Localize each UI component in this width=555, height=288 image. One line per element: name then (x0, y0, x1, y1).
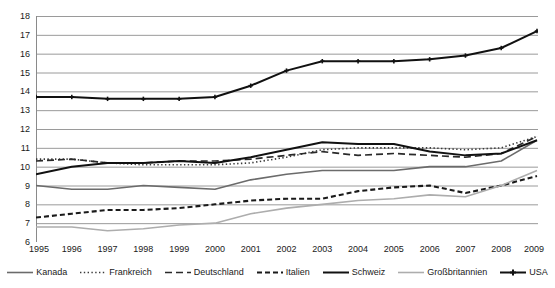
y-axis-tick-label: 12 (20, 125, 30, 134)
legend-item-deutschland[interactable]: Deutschland (165, 268, 244, 277)
legend-item-schweiz[interactable]: Schweiz (323, 268, 386, 277)
legend-swatch-dotted (80, 268, 106, 277)
data-point-marker (177, 97, 181, 101)
data-point-marker (141, 97, 145, 101)
legend-swatch-solid (500, 268, 526, 277)
x-axis-tick-label: 1995 (29, 245, 49, 254)
series-line-gro-britannien (36, 170, 537, 230)
x-axis-tick-label: 1999 (169, 245, 189, 254)
legend-swatch-dashed-short (257, 268, 283, 277)
y-axis-tick-label: 16 (20, 49, 30, 58)
legend-label: Frankreich (109, 268, 152, 277)
x-axis-tick-label: 2004 (348, 245, 368, 254)
data-point-marker (36, 95, 38, 99)
y-axis-tick-label: 7 (25, 219, 30, 228)
x-axis-tick-label: 2003 (312, 245, 332, 254)
legend-label: Schweiz (352, 268, 386, 277)
legend-swatch-solid (398, 268, 424, 277)
x-axis-tick-label: 2001 (241, 245, 261, 254)
legend-item-frankreich[interactable]: Frankreich (80, 268, 152, 277)
legend-swatch-solid (7, 268, 33, 277)
legend-label: Italien (286, 268, 310, 277)
legend-item-italien[interactable]: Italien (257, 268, 310, 277)
x-axis-tick-label: 2006 (420, 245, 440, 254)
data-point-marker (213, 95, 217, 99)
y-axis-tick-label: 17 (20, 30, 30, 39)
chart-legend: KanadaFrankreichDeutschlandItalienSchwei… (0, 264, 555, 280)
legend-label: Großbritannien (427, 268, 487, 277)
data-point-marker (356, 59, 360, 63)
y-axis-tick-label: 8 (25, 200, 30, 209)
x-axis-tick-label: 2009 (524, 245, 544, 254)
series-line-usa (36, 31, 537, 99)
y-axis-tick-label: 9 (25, 181, 30, 190)
y-axis-tick-label: 10 (20, 162, 30, 171)
legend-item-kanada[interactable]: Kanada (7, 268, 67, 277)
legend-label: Deutschland (194, 268, 244, 277)
data-point-marker (392, 59, 396, 63)
x-axis-tick-label: 2002 (276, 245, 296, 254)
y-axis-tick-label: 15 (20, 68, 30, 77)
series-line-kanada (36, 140, 537, 189)
y-axis-tick-label: 18 (20, 12, 30, 21)
legend-swatch-solid (323, 268, 349, 277)
x-axis-tick-label: 2008 (491, 245, 511, 254)
y-axis-tick-label: 13 (20, 106, 30, 115)
legend-label: Kanada (36, 268, 67, 277)
data-point-marker (320, 59, 324, 63)
y-axis-tick-labels: 6789101112131415161718 (0, 16, 30, 242)
legend-swatch-dashed-long (165, 268, 191, 277)
x-axis-tick-label: 1996 (62, 245, 82, 254)
x-axis-tick-label: 1998 (133, 245, 153, 254)
data-point-marker (105, 97, 109, 101)
legend-label: USA (529, 268, 548, 277)
y-axis-tick-label: 11 (21, 143, 30, 152)
x-axis-tick-label: 1997 (98, 245, 118, 254)
x-axis-tick-label: 2000 (205, 245, 225, 254)
data-point-marker (427, 57, 431, 61)
plot-area (36, 16, 538, 242)
plot-svg (36, 16, 538, 242)
x-axis-tick-label: 2005 (384, 245, 404, 254)
line-chart: 6789101112131415161718 19951996199719981… (0, 0, 555, 288)
data-point-marker (70, 95, 74, 99)
y-axis-tick-label: 14 (20, 87, 30, 96)
legend-item-gro-britannien[interactable]: Großbritannien (398, 268, 487, 277)
x-axis-tick-labels: 1995199619971998199920002001200220032004… (36, 245, 538, 259)
legend-item-usa[interactable]: USA (500, 268, 548, 277)
x-axis-tick-label: 2007 (455, 245, 475, 254)
